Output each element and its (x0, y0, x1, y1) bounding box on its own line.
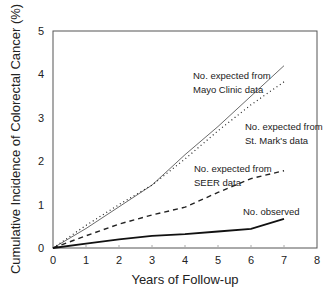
annotation-label: No. expected from (245, 121, 323, 132)
x-tick-label: 0 (50, 254, 56, 266)
x-axis-label: Years of Follow-up (131, 272, 238, 287)
annotation-label: St. Mark's data (245, 135, 309, 146)
y-tick-label: 0 (38, 242, 44, 254)
x-tick-label: 1 (83, 254, 89, 266)
y-tick-label: 1 (38, 199, 44, 211)
x-tick-label: 2 (116, 254, 122, 266)
x-tick-label: 4 (182, 254, 188, 266)
y-tick-label: 2 (38, 155, 44, 167)
y-tick-label: 4 (38, 68, 44, 80)
y-axis-ticks: 012345 (38, 25, 44, 254)
y-tick-label: 5 (38, 25, 44, 37)
annotation-label: No. observed (243, 206, 300, 217)
x-tick-label: 5 (215, 254, 221, 266)
annotation-label: No. expected from (194, 163, 272, 174)
series-line (53, 219, 284, 248)
x-tick-label: 6 (248, 254, 254, 266)
y-tick-label: 3 (38, 112, 44, 124)
x-tick-label: 3 (149, 254, 155, 266)
x-tick-label: 8 (314, 254, 320, 266)
series-annotations: No. expected fromMayo Clinic dataNo. exp… (193, 70, 323, 217)
annotation-label: No. expected from (193, 70, 271, 81)
y-axis-label: Cumulative Incidence of Colorectal Cance… (8, 4, 23, 274)
x-tick-label: 7 (281, 254, 287, 266)
cumulative-incidence-chart: 012345 012345678 No. expected fromMayo C… (0, 0, 332, 299)
annotation-label: Mayo Clinic data (193, 84, 264, 95)
annotation-label: SEER data (194, 177, 242, 188)
